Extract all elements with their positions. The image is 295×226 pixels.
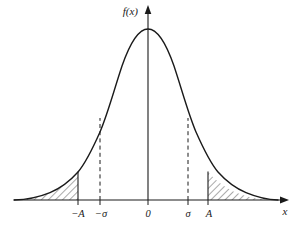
tick-label-plus-A: A (205, 208, 213, 219)
y-axis (145, 5, 152, 200)
right-tail-shaded-region (206, 160, 278, 202)
tick-label-plus-sigma: σ (185, 208, 191, 219)
x-axis-arrow-icon (280, 197, 289, 204)
tick-label-zero: 0 (145, 208, 151, 219)
left-tail-shaded-region (10, 160, 82, 202)
x-axis-label: x (282, 205, 288, 217)
normal-distribution-figure: f(x) x −A −σ 0 σ A (0, 0, 295, 226)
tick-label-minus-A: −A (71, 208, 85, 219)
y-axis-label: f(x) (123, 5, 139, 18)
x-axis-ticks (78, 200, 208, 205)
tick-label-minus-sigma: −σ (95, 208, 108, 219)
y-axis-arrow-icon (145, 5, 152, 14)
gaussian-plot-svg: f(x) x −A −σ 0 σ A (0, 0, 295, 226)
gaussian-curve (14, 29, 278, 200)
